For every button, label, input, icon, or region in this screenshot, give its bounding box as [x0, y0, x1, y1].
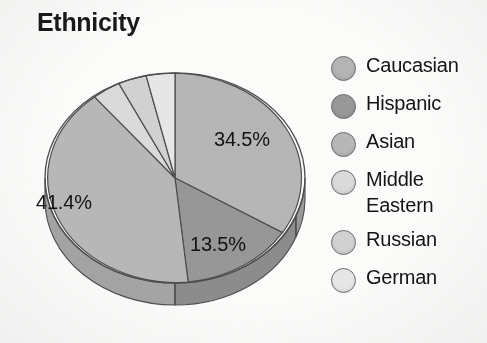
- legend-label-line: Eastern: [366, 192, 434, 218]
- legend-label-hispanic: Hispanic: [366, 90, 441, 116]
- legend-swatch-icon: [331, 94, 356, 119]
- legend-label-line: Hispanic: [366, 90, 441, 116]
- legend-swatch-icon: [331, 268, 356, 293]
- legend-swatch-icon: [331, 132, 356, 157]
- legend-item-asian[interactable]: Asian: [331, 128, 487, 158]
- legend-item-german[interactable]: German: [331, 264, 487, 294]
- legend-label-russian: Russian: [366, 226, 437, 252]
- legend-label-asian: Asian: [366, 128, 415, 154]
- chart-canvas: Ethnicity: [0, 0, 487, 343]
- legend-label-middle-eastern: Middle Eastern: [366, 166, 434, 218]
- legend-item-hispanic[interactable]: Hispanic: [331, 90, 487, 120]
- legend-label-line: Russian: [366, 226, 437, 252]
- legend-item-caucasian[interactable]: Caucasian: [331, 52, 487, 82]
- legend-swatch-icon: [331, 230, 356, 255]
- slice-value-asian: 41.4%: [36, 191, 92, 214]
- legend-label-line: Caucasian: [366, 52, 459, 78]
- chart-legend: Caucasian Hispanic Asian Middle Eastern: [331, 52, 487, 302]
- legend-item-middle-eastern[interactable]: Middle Eastern: [331, 166, 487, 218]
- pie-slices: [48, 73, 302, 283]
- legend-label-german: German: [366, 264, 437, 290]
- legend-item-russian[interactable]: Russian: [331, 226, 487, 256]
- legend-swatch-icon: [331, 170, 356, 195]
- pie-chart: 34.5% 41.4% 13.5%: [0, 0, 330, 343]
- slice-value-caucasian: 34.5%: [214, 128, 270, 151]
- legend-label-line: German: [366, 264, 437, 290]
- legend-swatch-icon: [331, 56, 356, 81]
- legend-label-line: Asian: [366, 128, 415, 154]
- legend-label-line: Middle: [366, 166, 434, 192]
- slice-value-hispanic: 13.5%: [190, 233, 246, 256]
- pie-chart-graphic: [0, 0, 330, 343]
- legend-label-caucasian: Caucasian: [366, 52, 459, 78]
